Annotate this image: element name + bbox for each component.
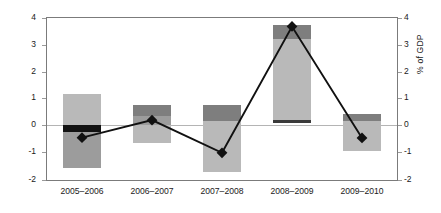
bar-segment: [203, 105, 241, 121]
y-label-left-3: 3: [18, 40, 36, 49]
bar-segment: [343, 114, 381, 121]
bar-group: [203, 0, 241, 213]
y-label-right-m2: -2: [404, 175, 422, 184]
bar-segment: [63, 132, 101, 168]
y-tick-right-0: [398, 125, 402, 126]
bar-segment: [203, 121, 241, 172]
y-tick-right-m2: [398, 180, 402, 181]
y-axis-right-line: [397, 17, 398, 181]
y-label-left-1: 1: [18, 93, 36, 102]
bar-segment: [133, 125, 171, 143]
bar-group: [343, 0, 381, 213]
y-tick-left-1: [42, 98, 46, 99]
category-label: 2009–2010: [327, 186, 397, 196]
y-axis-title: % of GDP: [415, 34, 425, 74]
bar-segment: [343, 121, 381, 151]
y-tick-left-m1: [42, 152, 46, 153]
y-axis-left-line: [46, 17, 47, 181]
y-label-left-m2: -2: [18, 175, 36, 184]
bar-group: [63, 0, 101, 213]
y-tick-left-3: [42, 45, 46, 46]
y-label-right-m1: -1: [404, 147, 422, 156]
chart-container: 4 3 2 1 0 -1 -2 4 3 2 1 0 -1 -2 2005–200…: [0, 0, 441, 213]
bar-segment: [273, 120, 311, 123]
y-tick-left-0: [42, 125, 46, 126]
y-label-left-m1: -1: [18, 147, 36, 156]
bar-segment: [273, 39, 311, 121]
y-tick-left-2: [42, 72, 46, 73]
y-tick-left-4: [42, 18, 46, 19]
y-label-right-1: 1: [404, 93, 422, 102]
category-label: 2006–2007: [117, 186, 187, 196]
bar-segment: [63, 125, 101, 132]
bar-segment: [133, 105, 171, 117]
y-tick-right-4: [398, 18, 402, 19]
category-label: 2007–2008: [187, 186, 257, 196]
y-label-right-0: 0: [404, 120, 422, 129]
bar-segment: [63, 94, 101, 125]
y-label-left-4: 4: [18, 13, 36, 22]
y-tick-right-1: [398, 98, 402, 99]
y-tick-right-3: [398, 45, 402, 46]
y-tick-right-m1: [398, 152, 402, 153]
category-label: 2005–2006: [47, 186, 117, 196]
y-label-left-0: 0: [18, 120, 36, 129]
bar-segment: [273, 25, 311, 39]
bar-segment: [133, 116, 171, 125]
category-label: 2008–2009: [257, 186, 327, 196]
bar-group: [273, 0, 311, 213]
y-tick-left-m2: [42, 180, 46, 181]
y-label-left-2: 2: [18, 67, 36, 76]
bar-group: [133, 0, 171, 213]
y-label-right-4: 4: [404, 13, 422, 22]
y-tick-right-2: [398, 72, 402, 73]
